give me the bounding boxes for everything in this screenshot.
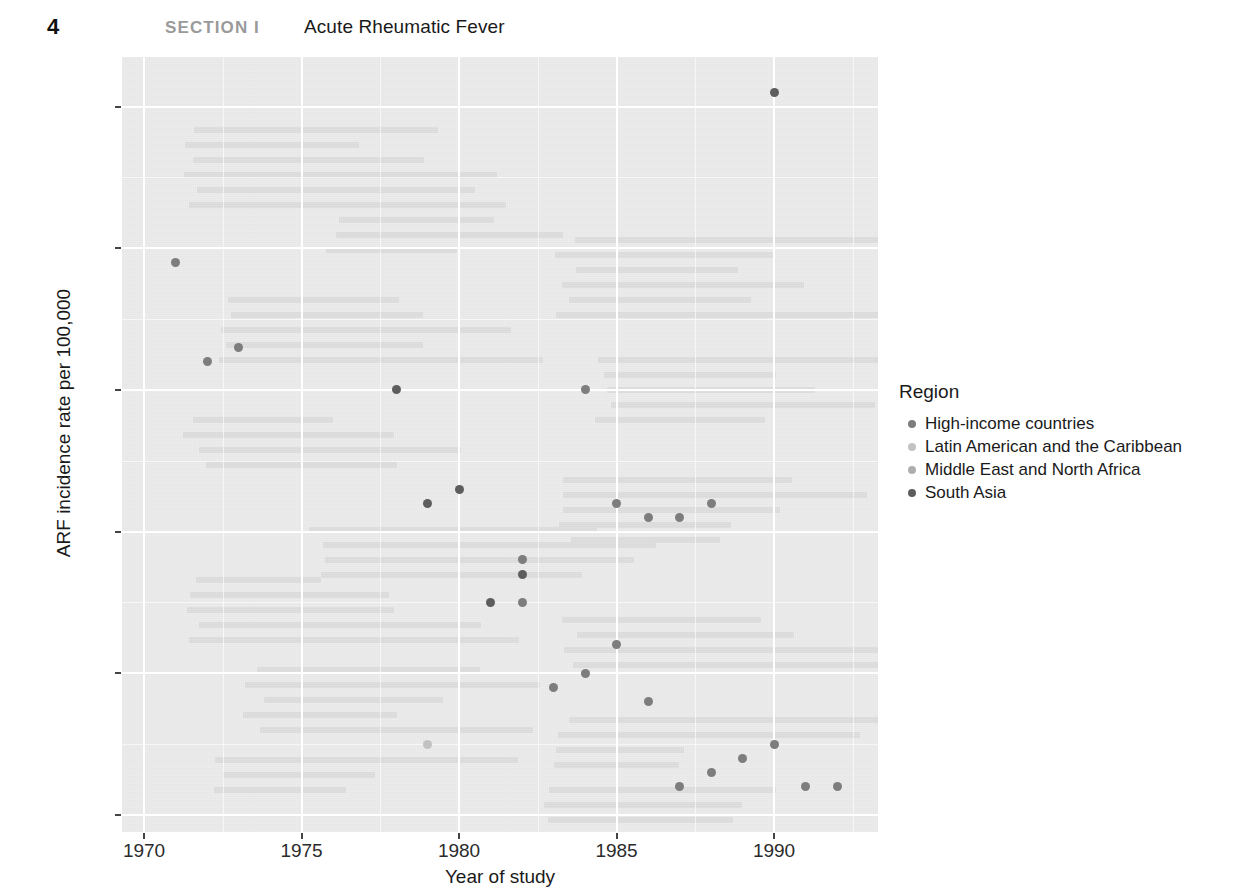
panel-texture	[122, 57, 878, 832]
page-canvas: 4 SECTION I Acute Rheumatic Fever 010203…	[0, 0, 1239, 893]
bleed-line	[563, 492, 867, 498]
y-tick-mark	[115, 814, 121, 816]
gridline-x-minor	[223, 57, 224, 832]
gridline-y-minor	[122, 177, 878, 178]
gridline-y-minor	[122, 602, 878, 603]
bleed-line	[569, 297, 751, 303]
data-point	[549, 683, 558, 692]
gridline-y-major	[122, 389, 878, 391]
gridline-y-minor	[122, 461, 878, 462]
bleed-line	[577, 632, 794, 638]
bleed-line	[611, 402, 875, 408]
legend-item[interactable]: High-income countries	[899, 412, 1229, 435]
gridline-x-major	[143, 57, 145, 832]
page-bleed-through	[122, 57, 878, 832]
bleed-line	[264, 697, 442, 703]
gridline-x-major	[773, 57, 775, 832]
bleed-line	[245, 682, 540, 688]
data-point	[644, 513, 653, 522]
bleed-line	[215, 757, 518, 763]
x-tick-mark	[773, 833, 775, 839]
scatter-plot-figure: 01020304050 19701975198019851990 ARF inc…	[0, 0, 1239, 893]
legend-dot-icon	[908, 443, 916, 451]
data-point	[707, 499, 716, 508]
legend-item-label: Middle East and North Africa	[925, 458, 1140, 481]
bleed-line	[334, 202, 506, 208]
data-point	[675, 513, 684, 522]
bleed-line	[563, 477, 792, 483]
bleed-line	[321, 572, 582, 578]
bleed-line	[325, 557, 634, 563]
bleed-line	[571, 537, 720, 543]
data-point	[644, 697, 653, 706]
bleed-line	[548, 817, 733, 823]
bleed-line	[575, 237, 878, 243]
legend-item-label: Latin American and the Caribbean	[925, 435, 1182, 458]
legend-dot-icon	[908, 466, 916, 474]
data-point	[234, 343, 243, 352]
bleed-line	[189, 202, 481, 208]
bleed-line	[214, 787, 345, 793]
data-point	[738, 754, 747, 763]
bleed-line	[559, 522, 731, 528]
data-point	[518, 570, 527, 579]
legend-dot-icon	[908, 489, 916, 497]
bleed-line	[183, 432, 394, 438]
x-tick-mark	[616, 833, 618, 839]
data-point	[203, 357, 212, 366]
y-tick-mark	[115, 531, 121, 533]
gridline-x-minor	[853, 57, 854, 832]
legend-item[interactable]: South Asia	[899, 481, 1229, 504]
bleed-line	[193, 157, 424, 163]
y-axis-title: ARF incidence rate per 100,000	[53, 113, 75, 733]
bleed-line	[556, 312, 878, 318]
data-point	[171, 258, 180, 267]
bleed-line	[573, 662, 878, 668]
legend: Region High-income countriesLatin Americ…	[899, 381, 1229, 504]
legend-item-label: High-income countries	[925, 412, 1094, 435]
data-point	[612, 499, 621, 508]
gridline-y-major	[122, 106, 878, 108]
gridline-y-major	[122, 531, 878, 533]
legend-item[interactable]: Latin American and the Caribbean	[899, 435, 1229, 458]
bleed-line	[185, 142, 359, 148]
legend-item[interactable]: Middle East and North Africa	[899, 458, 1229, 481]
bleed-line	[231, 312, 424, 318]
legend-items: High-income countriesLatin American and …	[899, 412, 1229, 504]
x-tick-mark	[301, 833, 303, 839]
gridline-y-minor	[122, 744, 878, 745]
data-point	[423, 740, 432, 749]
bleed-line	[604, 372, 776, 378]
legend-key	[899, 458, 925, 481]
x-tick-label: 1970	[104, 840, 184, 862]
x-tick-label: 1975	[262, 840, 342, 862]
gridline-y-minor	[122, 319, 878, 320]
bleed-line	[558, 732, 861, 738]
bleed-line	[549, 787, 776, 793]
data-point	[675, 782, 684, 791]
x-tick-label: 1990	[734, 840, 814, 862]
gridline-x-major	[458, 57, 460, 832]
legend-title: Region	[899, 381, 1229, 403]
gridline-y-major	[122, 247, 878, 249]
bleed-line	[193, 417, 333, 423]
x-tick-mark	[458, 833, 460, 839]
plot-panel	[122, 57, 878, 832]
bleed-line	[556, 747, 684, 753]
gridline-x-major	[301, 57, 303, 832]
legend-item-label: South Asia	[925, 481, 1006, 504]
bleed-line	[544, 802, 742, 808]
bleed-line	[199, 447, 461, 453]
data-point	[770, 740, 779, 749]
data-point	[392, 385, 401, 394]
y-tick-mark	[115, 389, 121, 391]
bleed-line	[555, 252, 773, 258]
y-tick-mark	[115, 672, 121, 674]
bleed-line	[189, 637, 519, 643]
data-point	[581, 385, 590, 394]
legend-dot-icon	[908, 420, 916, 428]
bleed-line	[339, 217, 494, 223]
y-tick-mark	[115, 106, 121, 108]
data-point	[518, 555, 527, 564]
bleed-line	[323, 542, 656, 548]
